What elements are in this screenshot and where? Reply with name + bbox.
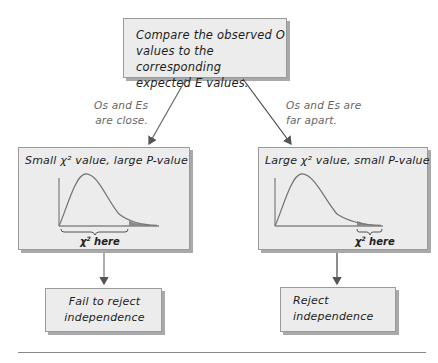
chi-here-label-left: χ2 here (80, 235, 120, 247)
chi-here-label-right: χ2 here (355, 235, 395, 247)
reject-line-1: Reject (293, 293, 373, 309)
right-label-line-2: far apart. (286, 113, 361, 128)
left-label-line-1: Os and Es (94, 98, 148, 113)
chi-square-curve-right (259, 148, 429, 251)
fail-to-reject-box: Fail to reject independence (45, 288, 162, 332)
fail-to-reject-text: Fail to reject independence (46, 294, 163, 326)
bottom-divider (18, 352, 426, 353)
fail-line-2: independence (46, 310, 163, 326)
reject-line-2: independence (293, 309, 373, 325)
small-chi-box: Small χ² value, large P-value χ2 here (18, 147, 190, 250)
reject-box: Reject independence (280, 287, 396, 332)
left-label-line-2: are close. (94, 113, 148, 128)
arrow-right-branch (243, 79, 291, 144)
right-branch-label: Os and Es are far apart. (286, 98, 361, 128)
arrow-left-branch (149, 79, 186, 144)
right-label-line-1: Os and Es are (286, 98, 361, 113)
fail-line-1: Fail to reject (46, 294, 163, 310)
large-chi-box: Large χ² value, small P-value χ2 here (258, 147, 428, 250)
left-branch-label: Os and Es are close. (94, 98, 148, 128)
reject-text: Reject independence (293, 293, 373, 325)
